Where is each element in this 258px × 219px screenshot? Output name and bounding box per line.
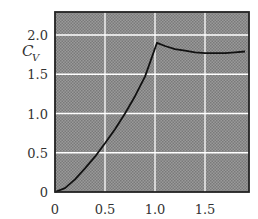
- x-tick-label: 1.0: [145, 202, 166, 217]
- y-axis-label: C V: [22, 42, 41, 63]
- y-tick-label: 2.0: [27, 28, 48, 43]
- chart: C V 00.51.01.5 00.51.01.52.0: [0, 0, 258, 219]
- plot-background: [55, 12, 249, 192]
- y-tick-label: 1.0: [27, 107, 48, 122]
- y-tick-label: 1.5: [27, 67, 48, 82]
- y-axis-label-subscript: V: [32, 52, 41, 63]
- y-tick-label: 0: [40, 185, 48, 200]
- x-tick-label: 0: [51, 202, 59, 217]
- y-tick-label: 0.5: [27, 146, 48, 161]
- x-axis-ticks: 00.51.01.5: [51, 202, 215, 217]
- plot-area: [55, 12, 249, 192]
- x-tick-label: 1.5: [195, 202, 216, 217]
- x-tick-label: 0.5: [95, 202, 116, 217]
